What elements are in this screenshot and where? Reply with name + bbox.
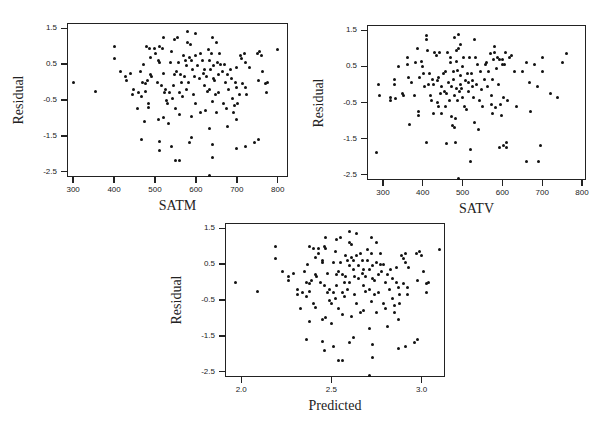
data-point — [536, 85, 539, 88]
data-point — [359, 252, 362, 255]
data-point — [256, 290, 259, 293]
data-point — [444, 105, 447, 108]
data-point — [462, 56, 465, 59]
x-tick — [421, 377, 422, 383]
data-point — [119, 70, 122, 73]
data-point — [352, 268, 355, 271]
y-tick-label: -0.5 — [29, 95, 57, 104]
data-point — [402, 94, 405, 97]
data-point — [446, 51, 449, 54]
data-point — [161, 47, 164, 50]
data-point — [406, 286, 409, 289]
data-point — [471, 85, 474, 88]
y-tick — [219, 263, 225, 264]
data-point — [461, 96, 464, 99]
data-point — [391, 297, 394, 300]
data-point — [260, 54, 263, 57]
data-point — [397, 318, 400, 321]
data-point — [490, 94, 493, 97]
data-point — [296, 288, 299, 291]
x-tick — [72, 177, 73, 183]
data-point — [505, 141, 508, 144]
data-point — [274, 245, 277, 248]
data-point — [463, 105, 466, 108]
data-point — [234, 281, 237, 284]
data-point — [452, 78, 455, 81]
data-point — [350, 315, 353, 318]
data-point — [382, 263, 385, 266]
data-point — [129, 72, 132, 75]
data-point — [389, 96, 392, 99]
data-point — [497, 83, 500, 86]
data-point — [170, 145, 173, 148]
plot-frame — [67, 23, 288, 177]
data-point — [477, 128, 480, 131]
data-point — [495, 67, 498, 70]
data-point — [472, 96, 475, 99]
x-axis-title: SATM — [118, 198, 238, 214]
data-point — [317, 247, 320, 250]
data-point — [142, 63, 145, 66]
data-point — [203, 84, 206, 87]
y-tick — [361, 174, 367, 175]
data-point — [326, 272, 329, 275]
y-tick — [361, 102, 367, 103]
data-point — [149, 56, 152, 59]
data-point — [417, 114, 420, 117]
data-point — [335, 238, 338, 241]
y-tick — [219, 228, 225, 229]
y-tick-label: -2.5 — [29, 167, 57, 176]
data-point — [321, 261, 324, 264]
data-point — [211, 36, 214, 39]
data-point — [312, 247, 315, 250]
data-point — [448, 99, 451, 102]
data-point — [167, 122, 170, 125]
data-point — [450, 85, 453, 88]
x-tick — [236, 177, 237, 183]
y-axis-title: Residual — [169, 260, 185, 340]
y-tick — [61, 99, 67, 100]
x-tick-label: 400 — [408, 188, 438, 197]
data-point — [180, 81, 183, 84]
data-point — [395, 281, 398, 284]
data-point — [332, 261, 335, 264]
data-point — [184, 59, 187, 62]
data-point — [408, 123, 411, 126]
data-point — [348, 281, 351, 284]
data-point — [437, 76, 440, 79]
data-point — [231, 97, 234, 100]
data-point — [454, 141, 457, 144]
x-tick-label: 400 — [99, 185, 129, 194]
data-point — [334, 250, 337, 253]
data-point — [375, 261, 378, 264]
x-tick — [502, 180, 503, 186]
y-tick — [361, 138, 367, 139]
data-point — [400, 254, 403, 257]
data-point — [393, 78, 396, 81]
data-point — [418, 76, 421, 79]
data-point — [432, 83, 435, 86]
data-point — [346, 288, 349, 291]
y-axis-title: Residual — [11, 60, 27, 140]
data-point — [257, 138, 260, 141]
data-point — [435, 54, 438, 57]
data-point — [469, 148, 472, 151]
y-tick-label: -2.5 — [187, 367, 215, 376]
x-tick-label: 500 — [448, 188, 478, 197]
data-point — [504, 51, 507, 54]
data-point — [305, 338, 308, 341]
data-point — [368, 327, 371, 330]
data-point — [397, 347, 400, 350]
data-point — [198, 77, 201, 80]
y-tick — [61, 171, 67, 172]
x-tick-label: 300 — [368, 188, 398, 197]
data-point — [490, 103, 493, 106]
y-tick-label: -1.5 — [329, 134, 357, 143]
data-point — [332, 345, 335, 348]
data-point — [500, 114, 503, 117]
x-tick — [241, 377, 242, 383]
data-point — [359, 311, 362, 314]
data-point — [188, 56, 191, 59]
data-point — [505, 146, 508, 149]
y-tick — [219, 371, 225, 372]
